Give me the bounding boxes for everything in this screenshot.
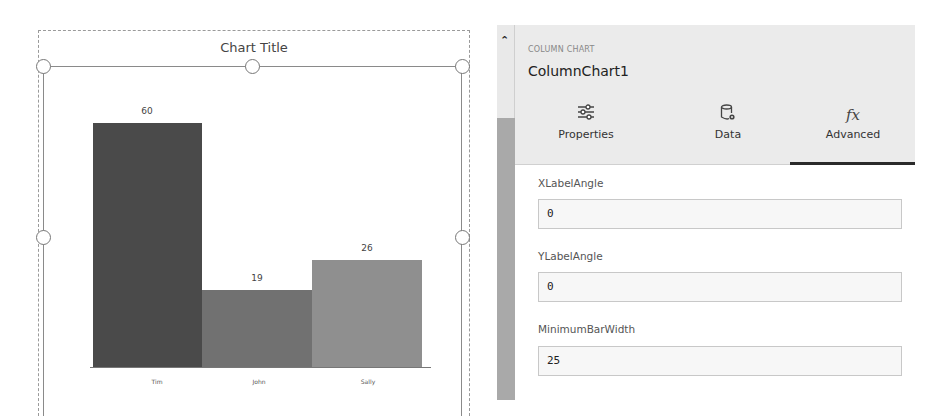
bar-sally — [312, 260, 422, 367]
ylabelangle-input[interactable]: 0 — [538, 272, 902, 302]
chevron-up-icon[interactable]: ⌃ — [500, 34, 509, 47]
tab-label: Properties — [526, 128, 646, 141]
bar-value-label: 19 — [237, 273, 277, 283]
tab-data[interactable]: Data — [668, 104, 788, 164]
bar-tim — [93, 123, 202, 367]
x-axis-label: Sally — [338, 378, 398, 385]
active-tab-indicator — [790, 162, 915, 165]
panel-scrollbar-thumb[interactable] — [497, 118, 515, 400]
field-label-ylabelangle: YLabelAngle — [538, 250, 603, 262]
resize-handle-middle-right[interactable] — [455, 230, 470, 245]
resize-handle-top-left[interactable] — [36, 59, 51, 74]
function-fx-icon: fx — [793, 104, 913, 126]
sliders-icon — [526, 104, 646, 126]
x-axis-label: Tim — [127, 378, 187, 385]
tab-properties[interactable]: Properties — [526, 104, 646, 164]
database-gear-icon — [668, 104, 788, 126]
chart-title: Chart Title — [38, 40, 470, 55]
field-label-minimumbarwidth: MinimumBarWidth — [538, 323, 635, 335]
resize-handle-top-right[interactable] — [455, 59, 470, 74]
x-axis-line — [90, 367, 431, 368]
resize-handle-top-center[interactable] — [245, 59, 260, 74]
control-type-label: COLUMN CHART — [528, 45, 595, 54]
xlabelangle-input[interactable]: 0 — [538, 199, 902, 229]
tab-label: Advanced — [793, 128, 913, 141]
control-name[interactable]: ColumnChart1 — [528, 63, 629, 79]
bar-value-label: 26 — [347, 243, 387, 253]
minimumbarwidth-input[interactable]: 25 — [538, 346, 902, 376]
field-label-xlabelangle: XLabelAngle — [538, 177, 603, 189]
resize-handle-middle-left[interactable] — [36, 230, 51, 245]
tab-label: Data — [668, 128, 788, 141]
x-axis-label: John — [229, 378, 289, 385]
bar-value-label: 60 — [127, 106, 167, 116]
tab-advanced[interactable]: fx Advanced — [793, 104, 913, 164]
bar-john — [202, 290, 312, 367]
